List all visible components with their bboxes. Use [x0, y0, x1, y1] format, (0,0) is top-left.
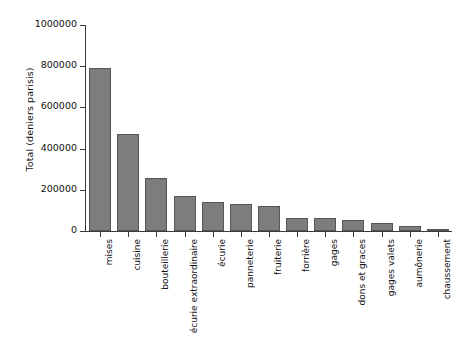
bar: [145, 178, 167, 231]
bar: [314, 218, 336, 231]
x-tick: [353, 232, 354, 237]
y-tick-label: 400000: [41, 142, 77, 153]
y-tick: 600000: [80, 107, 85, 108]
x-tick-label: écurie extraordinaire: [189, 239, 199, 333]
x-tick: [100, 232, 101, 237]
x-tick: [269, 232, 270, 237]
x-tick-label: aumônerie: [414, 239, 424, 287]
bar: [202, 202, 224, 231]
y-tick: 800000: [80, 66, 85, 67]
x-tick: [382, 232, 383, 237]
y-tick: 1000000: [80, 25, 85, 26]
x-tick: [128, 232, 129, 237]
x-tick-label: chaussement: [442, 239, 452, 299]
y-axis-line: [85, 25, 86, 232]
y-tick-label: 0: [71, 224, 77, 235]
y-tick-label: 1000000: [35, 18, 77, 29]
bar: [174, 196, 196, 231]
bar: [117, 134, 139, 231]
bar: [258, 206, 280, 231]
y-axis-title: Total (deniers parisis): [24, 45, 35, 195]
x-tick-label: mises: [104, 239, 114, 265]
x-tick: [156, 232, 157, 237]
bar: [399, 226, 421, 231]
bar: [342, 220, 364, 231]
x-tick-label: cuisine: [132, 239, 142, 271]
x-tick: [241, 232, 242, 237]
x-tick-label: bouteillerie: [160, 239, 170, 290]
x-tick-label: panneterie: [245, 239, 255, 288]
bar: [371, 223, 393, 231]
bar: [230, 204, 252, 231]
x-tick: [438, 232, 439, 237]
bar: [286, 218, 308, 231]
x-tick-label: dons et graces: [357, 239, 367, 306]
y-tick: 200000: [80, 190, 85, 191]
x-tick-label: gages valets: [386, 239, 396, 296]
y-tick-label: 800000: [41, 59, 77, 70]
x-tick: [185, 232, 186, 237]
x-tick-label: forrière: [301, 239, 311, 272]
x-tick-label: écurie: [217, 239, 227, 267]
bar: [427, 229, 449, 231]
bar: [89, 68, 111, 231]
plot-area: 02000004000006000008000001000000 misescu…: [86, 25, 452, 231]
y-tick-label: 200000: [41, 183, 77, 194]
x-tick-label: gages: [329, 239, 339, 266]
y-tick: 400000: [80, 149, 85, 150]
x-tick: [297, 232, 298, 237]
x-tick: [410, 232, 411, 237]
x-tick-label: fruiterie: [273, 239, 283, 275]
bar-chart: Total (deniers parisis) 0200000400000600…: [0, 0, 461, 345]
y-tick: 0: [80, 231, 85, 232]
x-tick: [325, 232, 326, 237]
y-tick-label: 600000: [41, 100, 77, 111]
x-tick: [213, 232, 214, 237]
